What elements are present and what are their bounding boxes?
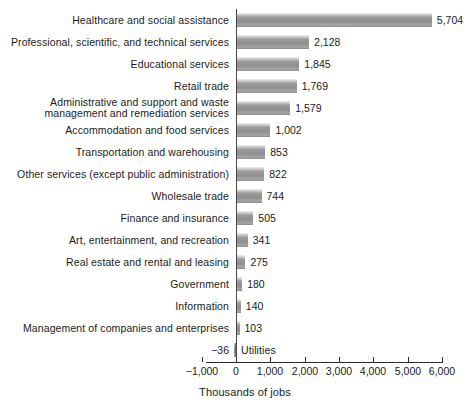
bar xyxy=(236,101,290,115)
value-label: 1,579 xyxy=(295,97,321,119)
x-axis-tick-label: 5,000 xyxy=(395,365,421,377)
bar-fill xyxy=(236,211,253,225)
bar xyxy=(236,79,297,93)
category-label: Wholesale trade xyxy=(152,185,229,207)
bar xyxy=(236,255,245,269)
x-axis-tick-label: 0 xyxy=(233,365,239,377)
value-label: 1,769 xyxy=(302,75,328,97)
category-label-line: Transportation and warehousing xyxy=(76,146,229,158)
x-axis-tick xyxy=(305,357,306,362)
bar xyxy=(236,123,270,137)
bar xyxy=(236,13,432,27)
value-label: 341 xyxy=(253,229,271,251)
chart-row: Retail trade1,769 xyxy=(0,75,468,97)
chart-row: Information140 xyxy=(0,295,468,317)
value-label: 1,002 xyxy=(275,119,301,141)
bar xyxy=(236,145,265,159)
chart-row: Art, entertainment, and recreation341 xyxy=(0,229,468,251)
value-label: 853 xyxy=(270,141,288,163)
value-label: 2,128 xyxy=(314,31,340,53)
category-label: Professional, scientific, and technical … xyxy=(11,31,229,53)
category-label-line: Government xyxy=(170,278,229,290)
chart-row: Finance and insurance505 xyxy=(0,207,468,229)
bar-fill xyxy=(236,57,299,71)
chart-row: Real estate and rental and leasing275 xyxy=(0,251,468,273)
x-axis-tick-label: 2,000 xyxy=(292,365,318,377)
x-axis-tick-label: 1,000 xyxy=(257,365,283,377)
category-label-line: Management of companies and enterprises xyxy=(23,322,229,334)
category-label: Management of companies and enterprises xyxy=(23,317,229,339)
chart-row: Transportation and warehousing853 xyxy=(0,141,468,163)
value-label: 744 xyxy=(267,185,285,207)
bar-fill xyxy=(236,13,432,27)
category-label-line: Educational services xyxy=(131,58,229,70)
category-label-line: Healthcare and social assistance xyxy=(72,14,229,26)
x-axis-tick-label: 3,000 xyxy=(326,365,352,377)
category-label: Transportation and warehousing xyxy=(76,141,229,163)
value-label: 103 xyxy=(245,317,263,339)
x-axis-tick xyxy=(236,357,237,362)
category-label-line: Information xyxy=(175,300,229,312)
category-label-line: Finance and insurance xyxy=(121,212,229,224)
bar xyxy=(236,57,299,71)
category-label: Healthcare and social assistance xyxy=(72,9,229,31)
bar-fill xyxy=(236,123,270,137)
category-label-line: management and remediation services xyxy=(44,108,229,120)
category-label: Retail trade xyxy=(174,75,229,97)
category-label-line: Wholesale trade xyxy=(152,190,229,202)
bar-fill xyxy=(236,101,290,115)
category-label-line: Professional, scientific, and technical … xyxy=(11,36,229,48)
category-label-line: Utilities xyxy=(241,344,276,356)
x-axis-line xyxy=(206,362,443,363)
x-axis-tick-label: 6,000 xyxy=(429,365,455,377)
x-axis-tick xyxy=(408,357,409,362)
bar xyxy=(236,35,309,49)
bar xyxy=(236,211,253,225)
x-axis-tick xyxy=(442,357,443,362)
chart-row: Government180 xyxy=(0,273,468,295)
bar xyxy=(236,233,248,247)
category-label: Accommodation and food services xyxy=(65,119,229,141)
bar-fill xyxy=(236,255,245,269)
bar xyxy=(236,189,262,203)
category-label: Administrative and support and wastemana… xyxy=(44,97,229,119)
category-label-line: Retail trade xyxy=(174,80,229,92)
category-label-line: Other services (except public administra… xyxy=(17,168,229,180)
value-label: 5,704 xyxy=(437,9,463,31)
category-label: Real estate and rental and leasing xyxy=(66,251,229,273)
value-label: 275 xyxy=(250,251,268,273)
x-axis-tick xyxy=(270,357,271,362)
chart-rows: Healthcare and social assistance5,704Pro… xyxy=(0,9,468,361)
chart-row: Administrative and support and wastemana… xyxy=(0,97,468,119)
category-label: Other services (except public administra… xyxy=(17,163,229,185)
category-label-line: Real estate and rental and leasing xyxy=(66,256,229,268)
bar xyxy=(236,167,264,181)
value-label: 140 xyxy=(246,295,264,317)
bar-fill xyxy=(236,167,264,181)
bar-fill xyxy=(236,35,309,49)
x-axis-title-text: Thousands of jobs xyxy=(177,386,291,398)
x-axis-tick-label: 4,000 xyxy=(360,365,386,377)
chart-row: Management of companies and enterprises1… xyxy=(0,317,468,339)
chart-row: Utilities−36 xyxy=(0,339,468,361)
category-label-line: Accommodation and food services xyxy=(65,124,229,136)
chart-row: Educational services1,845 xyxy=(0,53,468,75)
bar-chart: Healthcare and social assistance5,704Pro… xyxy=(0,0,468,416)
value-label: 822 xyxy=(269,163,287,185)
value-label: 180 xyxy=(247,273,265,295)
x-axis-tick xyxy=(373,357,374,362)
bar-fill xyxy=(236,79,297,93)
chart-row: Wholesale trade744 xyxy=(0,185,468,207)
value-label: 505 xyxy=(258,207,276,229)
category-label: Government xyxy=(170,273,229,295)
value-label: −36 xyxy=(211,339,229,361)
value-label: 1,845 xyxy=(304,53,330,75)
x-axis-tick xyxy=(202,357,203,362)
zero-baseline xyxy=(236,9,237,362)
chart-row: Accommodation and food services1,002 xyxy=(0,119,468,141)
category-label: Finance and insurance xyxy=(121,207,229,229)
bar-fill xyxy=(236,189,262,203)
category-label: Educational services xyxy=(131,53,229,75)
x-axis-tick xyxy=(339,357,340,362)
bar-fill xyxy=(236,233,248,247)
